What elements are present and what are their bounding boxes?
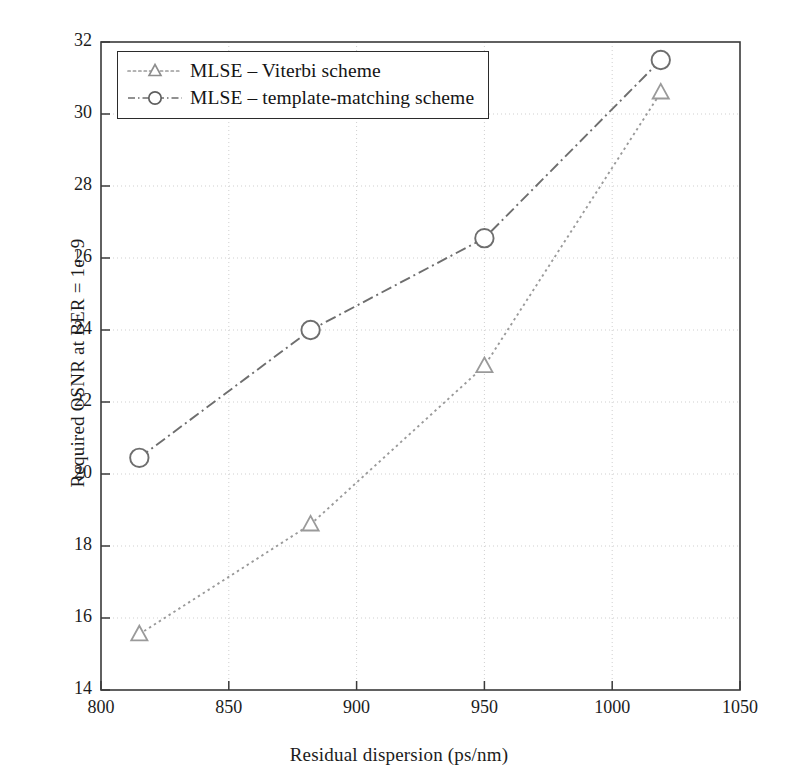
tick-marks-group (101, 42, 740, 690)
data-point-marker-circle (301, 321, 319, 339)
y-tick-label: 32 (32, 30, 92, 51)
series-line-0 (139, 92, 661, 634)
y-axis-label: Required OSNR at BER = 1e−9 (67, 153, 89, 573)
x-tick-label: 850 (194, 697, 264, 718)
x-tick-label: 1000 (577, 697, 647, 718)
x-axis-label: Residual dispersion (ps/nm) (0, 744, 798, 766)
data-series-group (130, 51, 670, 641)
legend-label-viterbi: MLSE – Viterbi scheme (190, 60, 381, 82)
data-point-marker-triangle (303, 516, 319, 531)
legend-item-template-matching: MLSE – template-matching scheme (127, 84, 474, 111)
data-point-marker-triangle (653, 84, 669, 99)
legend-label-template-matching: MLSE – template-matching scheme (190, 87, 474, 109)
x-tick-label: 900 (322, 697, 392, 718)
gridlines-group (101, 42, 740, 690)
circle-marker-icon (127, 87, 183, 109)
y-tick-label: 30 (32, 102, 92, 123)
x-tick-label: 800 (66, 697, 136, 718)
legend-item-viterbi: MLSE – Viterbi scheme (127, 57, 474, 84)
x-tick-label: 950 (449, 697, 519, 718)
data-point-marker-circle (652, 51, 670, 69)
data-point-marker-circle (475, 229, 493, 247)
y-tick-label: 16 (32, 606, 92, 627)
triangle-marker-icon (127, 60, 183, 82)
chart-legend: MLSE – Viterbi scheme MLSE – template-ma… (117, 51, 489, 119)
plot-frame (101, 42, 740, 690)
chart-figure: 80085090095010001050 1416182022242628303… (0, 0, 798, 784)
y-tick-label: 14 (32, 678, 92, 699)
data-point-marker-triangle (476, 358, 492, 373)
data-point-marker-triangle (131, 626, 147, 641)
x-tick-label: 1050 (705, 697, 775, 718)
data-point-marker-circle (130, 449, 148, 467)
series-line-1 (139, 60, 661, 458)
